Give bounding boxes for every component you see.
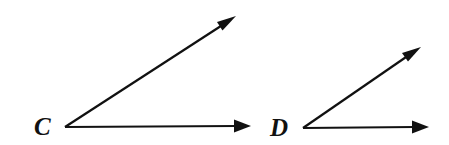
geometry-figure-canvas: C D — [0, 0, 449, 145]
angles-diagram-svg: C D — [0, 0, 449, 145]
angle-c-group: C — [34, 16, 251, 140]
ray-c-horizontal — [65, 120, 251, 133]
ray-c-upper — [65, 16, 236, 127]
ray-c-horizontal-arrowhead-icon — [234, 120, 251, 133]
ray-d-upper-arrowhead-icon — [402, 47, 421, 62]
ray-c-upper-arrowhead-icon — [217, 16, 236, 31]
vertex-label-c: C — [34, 113, 51, 140]
ray-c-upper-line — [65, 24, 224, 127]
vertex-label-d: D — [269, 114, 288, 141]
ray-d-horizontal-line — [303, 127, 415, 128]
angle-d-group: D — [269, 47, 429, 141]
ray-d-horizontal-arrowhead-icon — [412, 121, 429, 134]
ray-d-upper — [303, 47, 421, 128]
ray-c-horizontal-line — [65, 126, 237, 127]
ray-d-horizontal — [303, 121, 429, 134]
ray-d-upper-line — [303, 55, 409, 128]
